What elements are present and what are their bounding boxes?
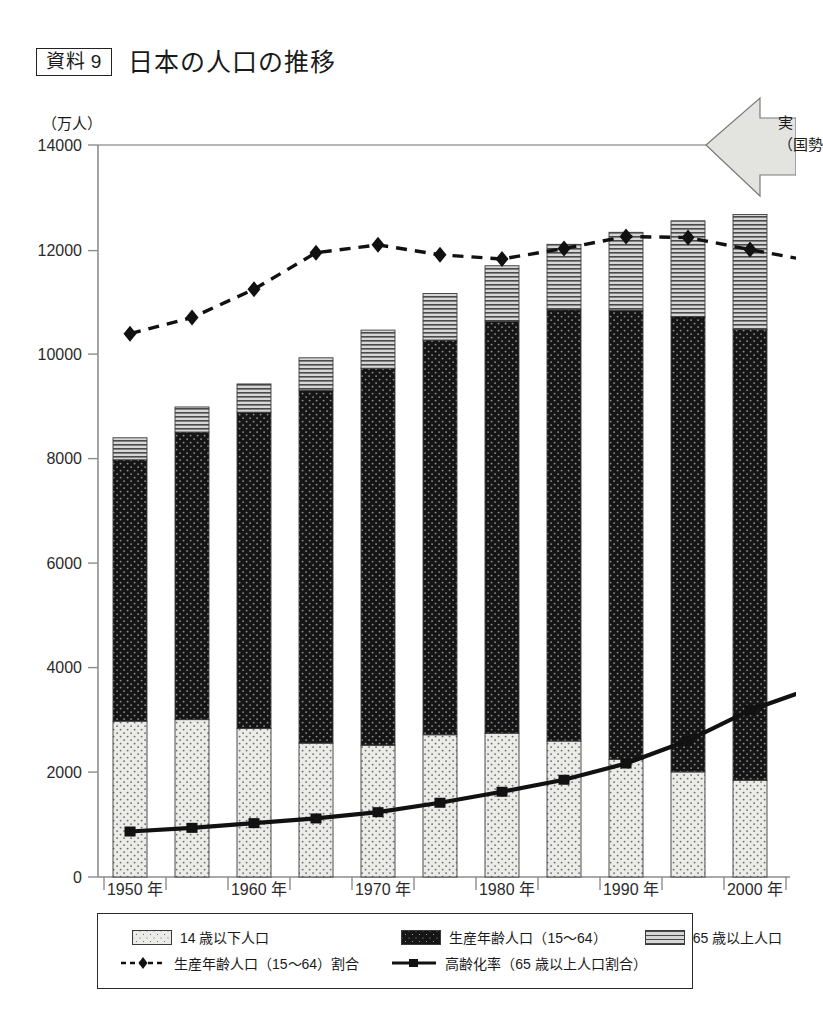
- bar-segment-working: [299, 390, 333, 743]
- bar-segment-working: [423, 340, 457, 735]
- bar-segment-young: [547, 741, 581, 877]
- legend-row-lines: 生産年齢人口（15〜64）割合 高齢化率（65 歳以上人口割合）: [112, 950, 678, 976]
- svg-text:2000 年: 2000 年: [727, 881, 783, 898]
- svg-text:12000: 12000: [38, 242, 83, 259]
- svg-text:6000: 6000: [46, 555, 82, 572]
- legend-solid-square-line-icon: [391, 956, 437, 970]
- bar-segment-working: [361, 368, 395, 745]
- bar-segment-young: [299, 743, 333, 877]
- bar-segment-young: [733, 780, 767, 877]
- bar-segment-elderly: [175, 407, 209, 432]
- working-age-ratio-marker: [186, 310, 199, 326]
- svg-text:2000: 2000: [46, 764, 82, 781]
- stacked-bar: [423, 293, 457, 877]
- y-axis-ticks: [88, 145, 98, 877]
- bar-segment-elderly: [237, 384, 271, 412]
- svg-text:1950 年: 1950 年: [107, 881, 163, 898]
- bar-segment-working: [485, 321, 519, 733]
- y-axis-tick-labels: 14000 12000 10000 8000 6000 4000 2000 0: [38, 137, 83, 886]
- bar-segment-young: [485, 733, 519, 877]
- bar-segment-elderly: [113, 438, 147, 460]
- aging-rate-marker: [745, 705, 756, 715]
- legend-swatch-working-icon: [401, 930, 441, 945]
- bar-segment-young: [113, 721, 147, 877]
- x-axis-ticks: [104, 877, 786, 890]
- aging-rate-marker: [311, 813, 322, 823]
- bar-segment-young: [671, 772, 705, 877]
- bar-segment-young: [175, 720, 209, 877]
- working-age-ratio-marker: [372, 237, 385, 253]
- aging-rate-marker: [497, 787, 508, 797]
- stacked-bars-layer: [113, 215, 767, 877]
- aging-rate-marker: [559, 775, 570, 785]
- aging-rate-marker: [683, 736, 694, 746]
- legend-row-bars: 14 歳以下人口 生産年齢人口（15〜64） 65 歳以上人口: [112, 924, 678, 950]
- stacked-bar: [485, 266, 519, 877]
- stacked-bar: [113, 438, 147, 877]
- bar-segment-elderly: [423, 293, 457, 340]
- svg-text:14000: 14000: [38, 137, 83, 154]
- stacked-bar: [175, 407, 209, 877]
- bar-segment-young: [237, 729, 271, 877]
- svg-text:1970 年: 1970 年: [355, 881, 411, 898]
- bar-segment-working: [113, 460, 147, 721]
- legend-item-young-population: 14 歳以下人口: [132, 927, 269, 947]
- stacked-bar: [237, 384, 271, 877]
- working-age-ratio-marker: [496, 251, 509, 267]
- bar-segment-elderly: [485, 266, 519, 321]
- svg-text:8000: 8000: [46, 450, 82, 467]
- bar-segment-working: [547, 310, 581, 741]
- working-age-ratio-marker: [310, 245, 323, 261]
- legend-label-old: 65 歳以上人口: [693, 927, 782, 947]
- legend-dashed-diamond-line-icon: [120, 956, 166, 970]
- legend-label-young: 14 歳以下人口: [180, 927, 269, 947]
- legend-item-aging-rate: 高齢化率（65 歳以上人口割合）: [391, 953, 646, 973]
- bar-segment-working: [671, 316, 705, 771]
- svg-text:10000: 10000: [38, 346, 83, 363]
- legend-label-aging-rate: 高齢化率（65 歳以上人口割合）: [445, 953, 646, 973]
- bar-segment-young: [609, 759, 643, 877]
- bar-segment-working: [175, 432, 209, 720]
- aging-rate-marker: [125, 827, 136, 837]
- legend-swatch-young-icon: [132, 930, 172, 945]
- aging-rate-marker: [249, 818, 260, 828]
- bar-segment-working: [237, 412, 271, 728]
- legend-item-elderly-population: 65 歳以上人口: [645, 927, 782, 947]
- working-age-ratio-marker: [124, 326, 137, 342]
- legend-swatch-elderly-icon: [645, 930, 685, 945]
- stacked-bar: [733, 215, 767, 877]
- stacked-bar: [671, 221, 705, 877]
- x-axis-tick-labels: 1950 年 1960 年 1970 年 1980 年 1990 年 2000 …: [107, 881, 783, 898]
- bar-segment-elderly: [361, 330, 395, 368]
- stacked-bar: [299, 358, 333, 877]
- svg-text:1980 年: 1980 年: [479, 881, 535, 898]
- bar-segment-elderly: [299, 358, 333, 390]
- callout-arrow-label: 実 （国勢: [778, 112, 823, 156]
- bar-segment-working: [609, 310, 643, 759]
- legend-item-working-ratio: 生産年齢人口（15〜64）割合: [120, 953, 359, 973]
- chart-legend: 14 歳以下人口 生産年齢人口（15〜64） 65 歳以上人口 生産年齢人口（1…: [97, 913, 693, 989]
- aging-rate-marker: [621, 759, 632, 769]
- legend-label-working: 生産年齢人口（15〜64）: [449, 927, 606, 947]
- svg-text:1960 年: 1960 年: [231, 881, 287, 898]
- svg-text:0: 0: [73, 869, 82, 886]
- stacked-bar: [609, 232, 643, 877]
- svg-text:4000: 4000: [46, 659, 82, 676]
- legend-item-working-age-population: 生産年齢人口（15〜64）: [401, 927, 606, 947]
- working-age-ratio-marker: [434, 247, 447, 263]
- working-age-ratio-marker: [248, 281, 261, 297]
- aging-rate-marker: [187, 823, 198, 833]
- callout-arrow-line2: （国勢: [778, 134, 823, 156]
- bar-segment-elderly: [733, 215, 767, 330]
- callout-arrow-line1: 実: [778, 112, 823, 134]
- legend-label-working-ratio: 生産年齢人口（15〜64）割合: [174, 953, 359, 973]
- aging-rate-marker: [373, 807, 384, 817]
- aging-rate-marker: [435, 798, 446, 808]
- stacked-bar: [361, 330, 395, 877]
- svg-text:1990 年: 1990 年: [603, 881, 659, 898]
